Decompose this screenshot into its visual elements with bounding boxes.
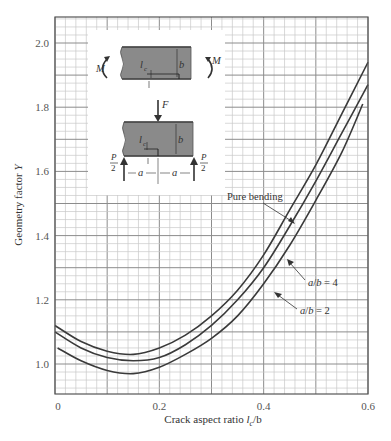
y-axis-label-main: Geometry factor xyxy=(12,170,24,245)
span-label-left: a xyxy=(138,167,143,178)
x-axis-label-tail: /b xyxy=(253,413,262,425)
geometry-factor-chart: M M l c b F l c b P xyxy=(0,0,391,441)
x-axis-ticks: 00.20.40.6 xyxy=(55,400,375,412)
ab4-label: a/b = 4 xyxy=(308,277,339,288)
support-label-right-num: P xyxy=(200,152,207,162)
y-tick-label: 1.8 xyxy=(35,101,49,113)
force-label: F xyxy=(161,99,169,110)
pure-bending-label: Pure bending xyxy=(227,191,283,202)
support-label-left-den: 2 xyxy=(111,163,116,173)
height-label: b xyxy=(179,59,184,70)
crack-length-label-2: l xyxy=(139,134,142,145)
moment-label-left: M xyxy=(95,63,106,74)
support-label-right-den: 2 xyxy=(201,163,206,173)
moment-label-right: M xyxy=(211,55,222,66)
y-axis-ticks: 1.01.21.41.61.82.0 xyxy=(35,37,49,370)
x-axis-label: Crack aspect ratio lc/b xyxy=(164,413,262,428)
span-label-right: a xyxy=(172,167,177,178)
crack-length-label: l xyxy=(140,59,143,70)
x-tick-label: 0.4 xyxy=(257,400,271,412)
support-label-left-num: P xyxy=(110,152,117,162)
ab2-eq: = 2 xyxy=(313,305,329,316)
ab2-label: a/b = 2 xyxy=(300,305,330,316)
y-tick-label: 1.0 xyxy=(35,358,49,370)
y-tick-label: 1.4 xyxy=(35,230,49,242)
y-tick-label: 1.2 xyxy=(35,294,49,306)
y-axis-label-var: Y xyxy=(12,162,24,170)
y-axis-label: Geometry factor Y xyxy=(12,162,24,245)
x-axis-label-main: Crack aspect ratio xyxy=(164,413,246,425)
height-label-2: b xyxy=(178,134,183,145)
y-tick-label: 2.0 xyxy=(35,37,49,49)
x-tick-label: 0 xyxy=(55,400,61,412)
annotation-ab2: a/b = 2 xyxy=(274,292,330,316)
ab4-eq: = 4 xyxy=(321,277,338,288)
specimen-inset: M M l c b F l c b P xyxy=(88,30,225,195)
x-tick-label: 0.6 xyxy=(361,400,375,412)
y-tick-label: 1.6 xyxy=(35,165,49,177)
x-tick-label: 0.2 xyxy=(152,400,166,412)
